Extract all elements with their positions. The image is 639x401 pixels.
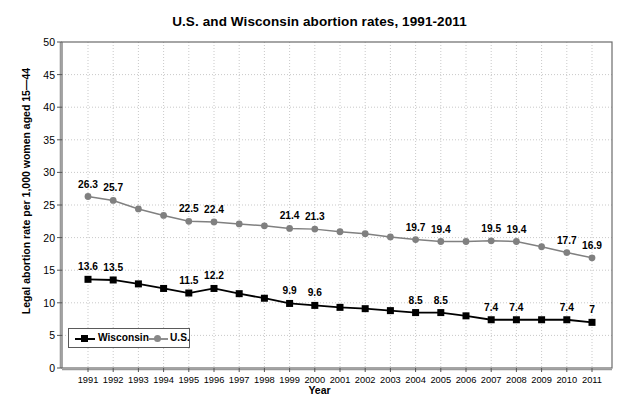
- data-marker: [85, 193, 92, 200]
- data-point-label: 13.5: [96, 263, 130, 273]
- data-point-label: 7: [575, 305, 609, 315]
- data-marker: [538, 316, 545, 323]
- data-marker: [185, 218, 192, 225]
- data-marker: [185, 290, 192, 297]
- data-marker: [589, 254, 596, 261]
- y-tick-label: 5: [29, 330, 55, 340]
- data-point-label: 8.5: [424, 296, 458, 306]
- y-tick-label: 30: [29, 167, 55, 177]
- data-point-label: 25.7: [96, 183, 130, 193]
- data-point-label: 7.4: [499, 303, 533, 313]
- data-marker: [286, 300, 293, 307]
- data-marker: [362, 305, 369, 312]
- data-point-label: 19.4: [424, 225, 458, 235]
- y-tick-label: 15: [29, 265, 55, 275]
- data-marker: [412, 236, 419, 243]
- y-tick-label: 50: [29, 37, 55, 47]
- data-marker: [311, 302, 318, 309]
- data-point-label: 9.6: [298, 288, 332, 298]
- data-marker: [160, 285, 167, 292]
- y-tick-label: 10: [29, 298, 55, 308]
- data-marker: [135, 206, 142, 213]
- data-marker: [513, 238, 520, 245]
- data-marker: [85, 276, 92, 283]
- data-marker: [236, 221, 243, 228]
- data-marker: [110, 276, 117, 283]
- legend-label-wisconsin: Wisconsin: [98, 332, 149, 343]
- legend-marker-wisconsin: [81, 335, 88, 342]
- data-point-label: 19.4: [499, 225, 533, 235]
- y-tick-label: 35: [29, 135, 55, 145]
- data-point-label: 21.3: [298, 212, 332, 222]
- data-point-label: 12.2: [197, 271, 231, 281]
- data-marker: [538, 243, 545, 250]
- data-marker: [463, 312, 470, 319]
- chart-legend: Wisconsin U.S.: [68, 328, 190, 348]
- chart-container: U.S. and Wisconsin abortion rates, 1991-…: [0, 0, 639, 401]
- data-marker: [563, 249, 570, 256]
- data-marker: [488, 237, 495, 244]
- data-marker: [437, 309, 444, 316]
- data-marker: [261, 222, 268, 229]
- data-marker: [412, 309, 419, 316]
- data-marker: [160, 212, 167, 219]
- data-marker: [437, 238, 444, 245]
- x-tick-label: 2011: [577, 375, 607, 385]
- data-marker: [589, 319, 596, 326]
- legend-marker-us: [154, 335, 161, 342]
- data-marker: [513, 316, 520, 323]
- data-marker: [362, 230, 369, 237]
- data-marker: [463, 238, 470, 245]
- y-tick-label: 20: [29, 233, 55, 243]
- data-marker: [337, 228, 344, 235]
- data-marker: [387, 307, 394, 314]
- legend-label-us: U.S.: [170, 332, 190, 343]
- data-marker: [311, 226, 318, 233]
- y-tick-label: 0: [29, 363, 55, 373]
- data-point-label: 16.9: [575, 241, 609, 251]
- data-marker: [211, 285, 218, 292]
- data-marker: [211, 219, 218, 226]
- data-marker: [387, 234, 394, 241]
- data-marker: [236, 290, 243, 297]
- data-marker: [488, 316, 495, 323]
- y-tick-label: 25: [29, 200, 55, 210]
- data-marker: [110, 197, 117, 204]
- data-marker: [563, 316, 570, 323]
- y-tick-label: 45: [29, 70, 55, 80]
- data-marker: [337, 304, 344, 311]
- data-marker: [135, 280, 142, 287]
- data-marker: [286, 225, 293, 232]
- data-marker: [261, 295, 268, 302]
- y-tick-label: 40: [29, 102, 55, 112]
- data-point-label: 22.4: [197, 205, 231, 215]
